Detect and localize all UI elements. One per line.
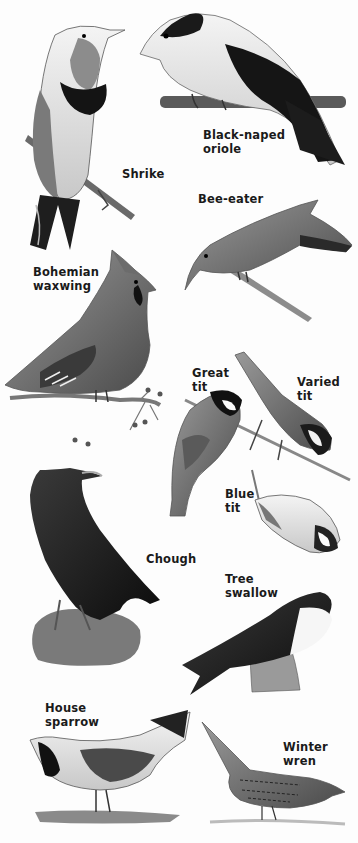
label-line: Winter <box>283 740 328 754</box>
winter-wren-illustration <box>202 722 345 824</box>
label-chough: Chough <box>146 552 196 566</box>
label-line: Bee-eater <box>198 192 263 206</box>
bird-illustration-plate: Shrike Black-naped oriole Bee-eater Bohe… <box>0 0 358 843</box>
label-great-tit: Great tit <box>192 366 229 394</box>
label-blue-tit: Blue tit <box>225 487 255 515</box>
tree-swallow-illustration <box>182 592 332 695</box>
label-varied-tit: Varied tit <box>297 375 340 403</box>
label-black-naped-oriole: Black-naped oriole <box>203 128 285 156</box>
shrike-illustration <box>25 26 135 250</box>
label-bee-eater: Bee-eater <box>198 192 263 206</box>
label-line: Tree <box>225 572 278 586</box>
label-line: tit <box>225 501 255 515</box>
label-tree-swallow: Tree swallow <box>225 572 278 600</box>
label-line: oriole <box>203 142 285 156</box>
label-line: sparrow <box>45 715 99 729</box>
label-line: Bohemian <box>33 265 99 279</box>
bee-eater-illustration <box>185 200 352 322</box>
label-line: Blue <box>225 487 255 501</box>
blue-tit-illustration <box>252 470 340 553</box>
varied-tit-illustration <box>235 352 332 460</box>
label-line: House <box>45 701 99 715</box>
label-line: wren <box>283 754 328 768</box>
label-line: Shrike <box>122 167 164 181</box>
label-line: Great <box>192 366 229 380</box>
label-shrike: Shrike <box>122 167 164 181</box>
label-bohemian-waxwing: Bohemian waxwing <box>33 265 99 293</box>
label-line: tit <box>297 389 340 403</box>
label-line: Black-naped <box>203 128 285 142</box>
chough-illustration <box>30 468 160 666</box>
label-winter-wren: Winter wren <box>283 740 328 768</box>
label-line: waxwing <box>33 279 99 293</box>
label-house-sparrow: House sparrow <box>45 701 99 729</box>
label-line: Varied <box>297 375 340 389</box>
label-line: Chough <box>146 552 196 566</box>
label-line: tit <box>192 380 229 394</box>
label-line: swallow <box>225 586 278 600</box>
